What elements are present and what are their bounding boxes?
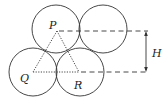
triangle-edge-pq (33, 31, 57, 72)
arrow-up-icon (144, 31, 148, 36)
label-p: P (48, 19, 57, 32)
label-q: Q (20, 72, 29, 85)
arrow-down-icon (144, 67, 148, 72)
circle-packing-diagram: P Q R H (0, 0, 165, 101)
circle-top-right (79, 5, 127, 53)
label-h: H (151, 47, 162, 60)
label-r: R (73, 79, 82, 92)
